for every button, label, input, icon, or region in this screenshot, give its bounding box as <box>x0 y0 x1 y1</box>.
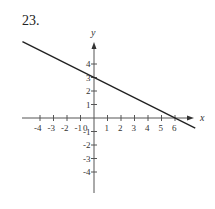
y-tick-label: -4 <box>83 167 91 177</box>
line-graph: xy-4-3-2-10123456-4-3-2-11234 <box>0 0 215 209</box>
y-tick-label: -1 <box>83 127 91 137</box>
y-tick-label: 4 <box>86 59 91 69</box>
x-tick-label: -3 <box>48 123 56 133</box>
x-tick-label: 4 <box>145 123 150 133</box>
y-axis-arrow-icon <box>92 42 97 49</box>
x-tick-label: 6 <box>172 123 177 133</box>
x-axis-arrow-icon <box>187 116 194 121</box>
x-tick-label: -1 <box>75 123 83 133</box>
data-line <box>22 42 195 128</box>
y-tick-label: 1 <box>86 100 91 110</box>
x-tick-label: -2 <box>61 123 69 133</box>
y-tick-label: -2 <box>83 140 91 150</box>
x-tick-label: 3 <box>132 123 137 133</box>
x-tick-label: 1 <box>105 123 110 133</box>
x-tick-label: -4 <box>34 123 42 133</box>
x-axis-label: x <box>199 112 205 123</box>
y-tick-label: -3 <box>83 154 91 164</box>
y-tick-label: 2 <box>86 86 91 96</box>
x-tick-label: 2 <box>118 123 123 133</box>
x-tick-label: 5 <box>159 123 164 133</box>
y-axis-label: y <box>90 27 96 38</box>
